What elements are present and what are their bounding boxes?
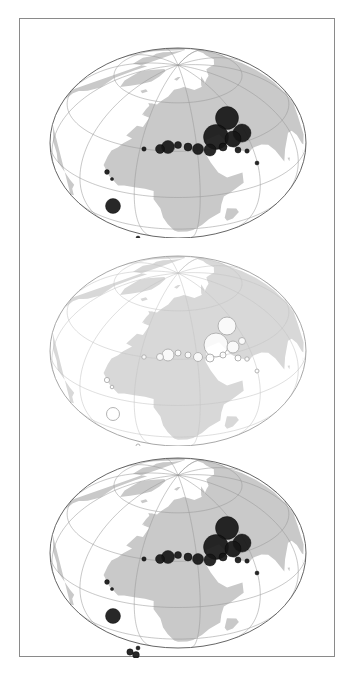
data-symbol (220, 352, 226, 358)
data-symbol (245, 559, 249, 563)
data-symbol (175, 142, 182, 149)
globe-map-top (20, 33, 336, 238)
data-symbol (255, 369, 259, 373)
data-symbol (175, 552, 182, 559)
data-symbol (245, 357, 249, 361)
data-symbol (219, 553, 227, 561)
globe-map-bottom (20, 443, 336, 658)
data-symbol (184, 553, 192, 561)
data-symbol (142, 355, 146, 359)
data-symbol (245, 149, 249, 153)
data-symbol (136, 236, 140, 238)
data-symbol (219, 143, 227, 151)
data-symbol (185, 352, 191, 358)
data-symbol (133, 652, 140, 658)
data-symbol (204, 144, 216, 156)
data-symbol (106, 199, 121, 214)
data-symbol (156, 145, 165, 154)
data-symbol (193, 144, 204, 155)
globe-panel-bottom (20, 443, 336, 658)
figure-frame (19, 18, 335, 657)
data-symbol (235, 355, 241, 361)
data-symbol (105, 170, 110, 175)
data-symbol (107, 408, 120, 421)
data-symbol (110, 587, 113, 590)
data-symbol (206, 354, 214, 362)
data-symbol (239, 338, 246, 345)
data-symbol (184, 143, 192, 151)
data-symbol (136, 646, 140, 650)
data-symbol (156, 555, 165, 564)
data-symbol (110, 177, 113, 180)
data-symbol (142, 147, 146, 151)
data-symbol (106, 609, 121, 624)
data-symbol (127, 649, 133, 655)
data-symbol (142, 557, 146, 561)
data-symbol (104, 377, 109, 382)
data-symbol (105, 580, 110, 585)
data-symbol (204, 554, 216, 566)
data-symbol (255, 161, 259, 165)
data-symbol (175, 350, 181, 356)
data-symbol (218, 317, 236, 335)
data-symbol (227, 341, 239, 353)
data-symbol (110, 385, 114, 389)
data-symbol (194, 353, 203, 362)
data-symbol (235, 557, 241, 563)
data-symbol (255, 571, 259, 575)
globe-panel-middle (20, 241, 336, 446)
data-symbol (162, 349, 174, 361)
data-symbol (225, 541, 241, 557)
data-symbol (193, 554, 204, 565)
globe-panel-top (20, 33, 336, 238)
globe-map-middle (20, 241, 336, 446)
data-symbol (157, 354, 164, 361)
data-symbol (235, 147, 241, 153)
data-symbol (225, 131, 241, 147)
